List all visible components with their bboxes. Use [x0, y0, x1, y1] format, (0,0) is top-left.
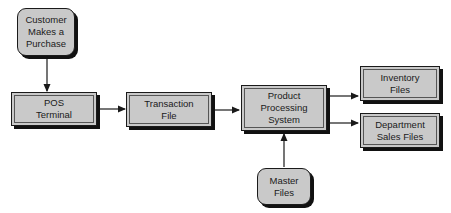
node-label: Department Sales Files [375, 119, 425, 143]
node-transaction-file: Transaction File [126, 92, 212, 127]
node-inventory-files: Inventory Files [360, 66, 440, 101]
node-product-processing-system: Product Processing System [241, 85, 327, 131]
node-pos-terminal: POS Terminal [11, 92, 97, 126]
node-label: Customer Makes a Purchase [25, 14, 66, 50]
node-label: Inventory Files [380, 72, 419, 96]
node-master-files: Master Files [257, 168, 311, 205]
node-label: Master Files [269, 175, 298, 199]
node-label: POS Terminal [36, 97, 72, 121]
node-department-sales-files: Department Sales Files [360, 113, 440, 148]
node-customer-makes-purchase: Customer Makes a Purchase [17, 8, 75, 56]
node-label: Product Processing System [261, 90, 308, 126]
node-label: Transaction File [144, 98, 193, 122]
